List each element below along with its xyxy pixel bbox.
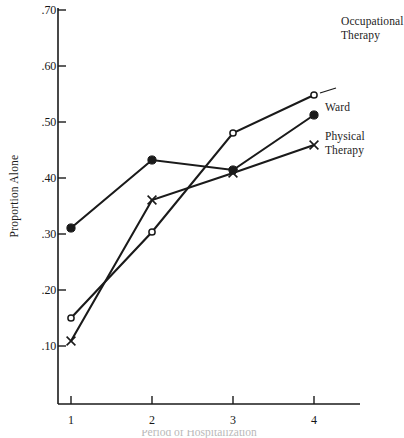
y-axis-title: Proportion Alone [8, 126, 20, 266]
y-tick-label-070: .70 [22, 3, 56, 18]
legend-label-physical-therapy: Physical Therapy [325, 130, 365, 157]
x-tick-label-4: 4 [303, 413, 325, 428]
x-axis-title-clipped: Period of Hospitalization [0, 430, 398, 438]
y-axis-ticks [58, 10, 66, 346]
point-occupational-therapy-4 [311, 92, 317, 98]
y-tick-label-020: .20 [22, 283, 56, 298]
y-tick-label-050: .50 [22, 115, 56, 130]
series-physical-therapy [67, 141, 319, 346]
y-tick-label-060: .60 [22, 59, 56, 74]
point-occupational-therapy-3 [230, 130, 236, 136]
series-occupational-therapy [68, 88, 336, 321]
x-tick-label-1: 1 [60, 413, 82, 428]
line-occupational-therapy [71, 95, 314, 318]
y-tick-label-030: .30 [22, 227, 56, 242]
x-axis-title: Period of Hospitalization [0, 430, 398, 438]
point-occupational-therapy-1 [68, 315, 74, 321]
legend-label-occupational-therapy: Occupational Therapy [341, 15, 404, 42]
x-tick-label-3: 3 [222, 413, 244, 428]
y-tick-label-040: .40 [22, 171, 56, 186]
point-occupational-therapy-2 [149, 229, 155, 235]
point-ward-4 [310, 111, 318, 119]
series-ward [67, 111, 318, 232]
axis-lines [58, 8, 360, 404]
legend-label-ward: Ward [325, 101, 350, 115]
point-physical-therapy-1 [67, 337, 76, 346]
leader-line-occupational-therapy [320, 88, 336, 93]
x-axis-ticks [71, 396, 314, 404]
point-ward-1 [67, 224, 75, 232]
line-ward [71, 115, 314, 228]
x-tick-label-2: 2 [141, 413, 163, 428]
point-ward-2 [148, 156, 156, 164]
y-tick-label-010: .10 [22, 339, 56, 354]
line-physical-therapy [71, 145, 314, 341]
